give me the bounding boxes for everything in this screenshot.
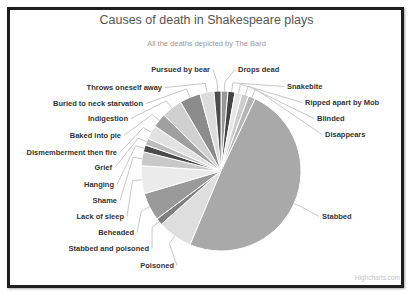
data-label-stabbed: Stabbed: [322, 212, 352, 221]
data-label-dismemberment-then-fire: Dismemberment then fire: [27, 148, 117, 157]
data-label-disappears: Disappears: [325, 130, 365, 139]
data-label-ripped-apart-by-mob: Ripped apart by Mob: [305, 98, 380, 107]
data-label-shame: Shame: [92, 196, 117, 205]
chart-title: Causes of death in Shakespeare plays: [99, 13, 313, 27]
data-label-pursued-by-bear: Pursued by bear: [151, 65, 210, 74]
data-label-stabbed-and-poisoned: Stabbed and poisoned: [69, 244, 150, 253]
data-label-blinded: Blinded: [317, 114, 345, 123]
data-label-grief: Grief: [94, 163, 112, 172]
pie-chart: Causes of death in Shakespeare plays All…: [0, 0, 410, 294]
data-label-poisoned: Poisoned: [140, 261, 174, 270]
data-label-indigestion: Indigestion: [88, 114, 128, 123]
data-label-lack-of-sleep: Lack of sleep: [76, 212, 124, 221]
label-connector: [213, 70, 218, 92]
label-connector: [137, 207, 150, 233]
data-label-beheaded: Beheaded: [98, 228, 134, 237]
label-connector: [127, 180, 142, 217]
highcharts-credit-link[interactable]: Highcharts.com: [355, 274, 400, 282]
label-connector: [165, 83, 207, 92]
chart-subtitle: All the deaths depicted by The Bard: [147, 39, 266, 48]
label-connector: [152, 222, 159, 249]
label-connector: [225, 70, 236, 92]
data-label-drops-dead: Drops dead: [238, 65, 280, 74]
label-connector: [294, 204, 319, 217]
data-label-baked-into-pie: Baked into pie: [70, 131, 121, 140]
pie-slices: [141, 91, 301, 251]
data-label-snakebite: Snakebite: [287, 82, 322, 91]
data-label-throws-oneself-away: Throws oneself away: [87, 83, 163, 92]
data-label-hanging: Hanging: [84, 180, 114, 189]
data-label-buried-to-neck-starvation: Buried to neck starvation: [53, 99, 143, 108]
label-connector: [120, 157, 142, 200]
